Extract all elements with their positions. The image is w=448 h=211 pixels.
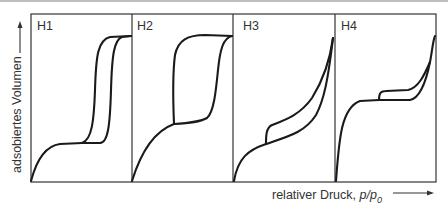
figure-root: H1 H2 H3 H4 adsobiertes Volumen relative… bbox=[0, 0, 448, 211]
y-axis-arrow bbox=[18, 21, 23, 53]
x-axis-label-text: relativer Druck, bbox=[272, 188, 360, 202]
panel-h4-curves bbox=[336, 36, 435, 181]
panel-h3-curves bbox=[234, 38, 333, 181]
x-axis-label: relativer Druck, p/p0 bbox=[272, 188, 382, 205]
panel-label-h4: H4 bbox=[341, 19, 357, 33]
panel-label-h2: H2 bbox=[137, 19, 153, 33]
x-axis-label-sub: 0 bbox=[377, 195, 382, 205]
panel-label-h3: H3 bbox=[243, 19, 259, 33]
panel-h2-curves bbox=[132, 35, 232, 181]
panel-label-h1: H1 bbox=[37, 19, 53, 33]
isotherm-plot bbox=[0, 0, 448, 211]
panel-h1-curves bbox=[31, 36, 131, 181]
x-axis-arrow bbox=[393, 191, 434, 196]
x-axis-label-var: p/p bbox=[360, 188, 377, 202]
y-axis-label: adsobiertes Volumen bbox=[10, 56, 24, 173]
